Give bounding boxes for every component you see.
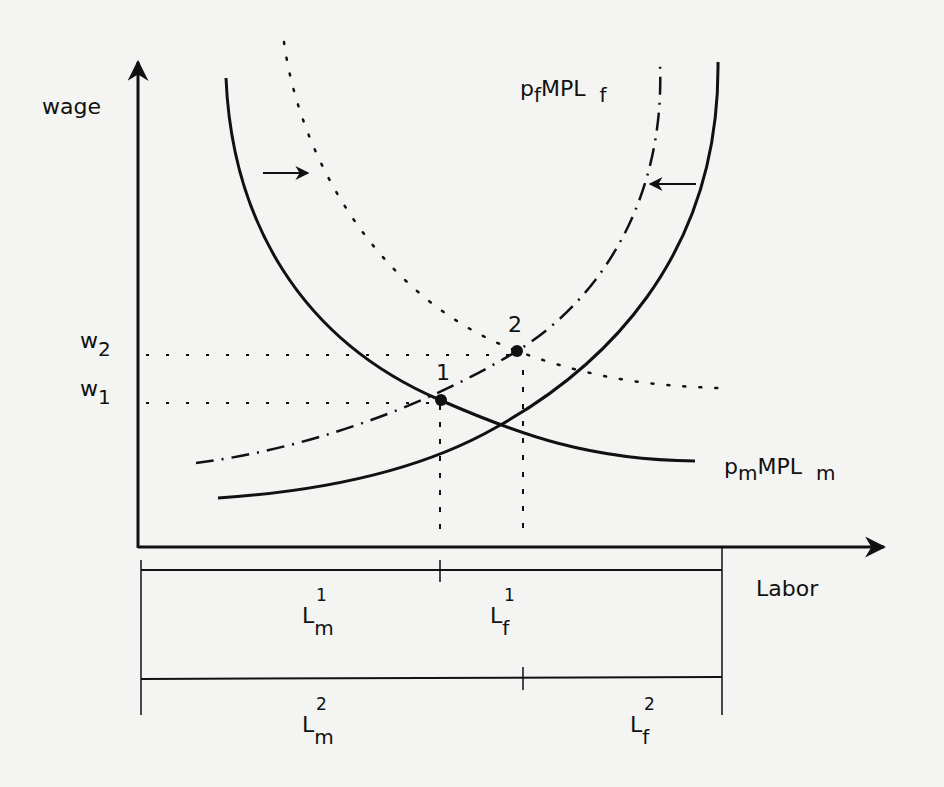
lm1-label: L1m xyxy=(302,605,334,627)
pm-mpl-m-label: pmMPL m xyxy=(724,456,835,478)
y-axis-label: wage xyxy=(42,96,101,118)
pf-mpl-f-curve xyxy=(218,62,718,498)
lf1-label: L1f xyxy=(490,605,509,627)
point-1-label: 1 xyxy=(436,362,450,384)
point-2-label: 2 xyxy=(508,314,522,336)
labor-market-diagram: wage Labor w2 w1 1 2 pfMPL f pmMPL m L1m… xyxy=(0,0,944,787)
diagram-canvas xyxy=(0,0,944,787)
allocation-bar-2 xyxy=(141,677,722,679)
x-axis-label: Labor xyxy=(756,578,818,600)
pm-mpl-m-curve xyxy=(226,78,695,461)
w1-label: w1 xyxy=(80,378,111,400)
point-1-marker xyxy=(435,394,447,406)
point-2-marker xyxy=(511,345,523,357)
pf-mpl-f-label: pfMPL f xyxy=(520,78,607,100)
lm2-label: L2m xyxy=(302,714,334,736)
lf2-label: L2f xyxy=(630,714,649,736)
w2-label: w2 xyxy=(80,330,111,352)
pm-shifted-dotted-curve xyxy=(284,42,718,388)
